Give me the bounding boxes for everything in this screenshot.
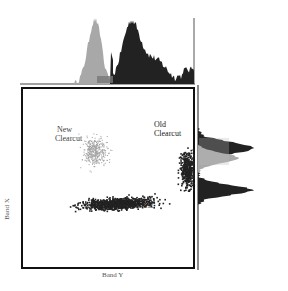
- label-new-clearcut: New Clearcut: [55, 125, 82, 143]
- label-old-line1: Old: [154, 120, 181, 129]
- plot-frame: [22, 88, 194, 268]
- top-hist-new-clearcut: [74, 18, 110, 84]
- top-hist-forest: [110, 21, 194, 85]
- label-old-line2: Clearcut: [154, 129, 181, 138]
- y-axis-label: Band X: [3, 198, 11, 220]
- right-hist-natural-forest: [198, 173, 254, 208]
- label-natural-forest: Natural Forest: [107, 201, 153, 210]
- scatter-figure: New Clearcut Old Clearcut Natural Forest…: [0, 0, 288, 291]
- chart-canvas: [0, 0, 288, 291]
- label-new-line2: Clearcut: [55, 134, 82, 143]
- x-axis-label: Band Y: [102, 271, 123, 279]
- top-hist-overlap: [97, 76, 113, 83]
- label-new-line1: New: [55, 125, 82, 134]
- label-old-clearcut: Old Clearcut: [154, 120, 181, 138]
